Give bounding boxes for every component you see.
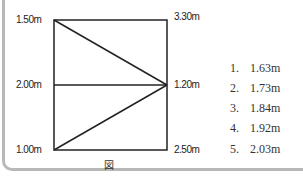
choice-number: 5.: [230, 142, 250, 157]
figure-caption: 図: [104, 157, 114, 172]
choice-number: 3.: [230, 101, 250, 116]
answer-choice[interactable]: 2.1.73m: [230, 81, 280, 96]
choice-number: 1.: [230, 61, 250, 76]
label-mid-left: 2.00m: [16, 79, 41, 90]
choice-value: 1.73m: [250, 81, 280, 95]
label-bottom-right: 2.50m: [174, 144, 199, 155]
answer-choice[interactable]: 1.1.63m: [230, 61, 280, 76]
label-bottom-left: 1.00m: [16, 144, 41, 155]
label-top-left: 1.50m: [16, 14, 41, 25]
label-mid-right: 1.20m: [174, 79, 199, 90]
diagonal-bottom: [54, 85, 167, 150]
answer-choice[interactable]: 5.2.03m: [230, 142, 280, 157]
choice-value: 1.63m: [250, 61, 280, 75]
choice-value: 2.03m: [250, 142, 280, 156]
choice-value: 1.84m: [250, 101, 280, 115]
choice-number: 2.: [230, 81, 250, 96]
answer-choice[interactable]: 3.1.84m: [230, 101, 280, 116]
choice-number: 4.: [230, 121, 250, 136]
label-top-right: 3.30m: [174, 11, 199, 22]
choice-value: 1.92m: [250, 121, 280, 135]
diagonal-top: [54, 20, 167, 85]
answer-choice[interactable]: 4.1.92m: [230, 121, 280, 136]
